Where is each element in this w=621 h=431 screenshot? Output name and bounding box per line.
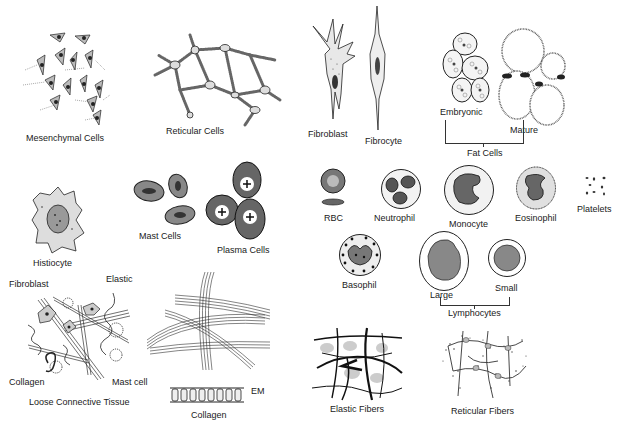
lymphocytes-bracket [440, 297, 510, 306]
label-basophil: Basophil [342, 280, 377, 290]
histiocyte-illustration [30, 185, 85, 255]
label-lct-fibroblast: Fibroblast [9, 279, 49, 289]
mature-fat-cells-illustration [497, 28, 569, 128]
label-collagen: Collagen [191, 410, 227, 420]
label-rbc: RBC [324, 213, 343, 223]
label-small-lymphocyte: Small [495, 283, 518, 293]
label-fat-cells: Fat Cells [467, 148, 503, 158]
label-embryonic: Embryonic [440, 107, 483, 117]
label-lct-mast-cell: Mast cell [112, 377, 148, 387]
label-reticular-cells: Reticular Cells [166, 126, 224, 136]
label-fibroblast: Fibroblast [308, 129, 348, 139]
mesenchymal-cells-illustration [15, 30, 115, 130]
fibroblast-illustration [305, 14, 360, 124]
eosinophil-illustration [515, 166, 557, 211]
platelets-illustration [584, 175, 608, 199]
label-reticular-fibers: Reticular Fibers [451, 406, 514, 416]
monocyte-illustration [443, 164, 495, 216]
loose-connective-tissue-illustration [8, 285, 153, 385]
elastic-fibers-illustration [312, 328, 404, 403]
embryonic-fat-cells-illustration [442, 32, 492, 104]
label-monocyte: Monocyte [449, 219, 488, 229]
label-plasma-cells: Plasma Cells [217, 245, 270, 255]
neutrophil-illustration [380, 168, 422, 210]
label-mast-cells: Mast Cells [139, 231, 181, 241]
label-eosinophil: Eosinophil [515, 213, 557, 223]
label-loose-connective-tissue: Loose Connective Tissue [29, 397, 130, 407]
fat-cells-bracket [445, 120, 524, 144]
reticular-cells-illustration [150, 30, 285, 125]
rbc-illustration [320, 168, 348, 208]
fat-cells-bracket-tick [483, 143, 484, 147]
label-fibrocyte: Fibrocyte [365, 136, 402, 146]
label-histiocyte: Histiocyte [33, 258, 72, 268]
plasma-cells-illustration [205, 162, 270, 242]
label-neutrophil: Neutrophil [374, 213, 415, 223]
reticular-fibers-illustration [438, 326, 530, 401]
label-mesenchymal-cells: Mesenchymal Cells [26, 133, 104, 143]
label-lct-collagen: Collagen [9, 377, 45, 387]
collagen-fibers-illustration [145, 270, 275, 370]
collagen-em-illustration [170, 385, 250, 405]
label-platelets: Platelets [577, 204, 612, 214]
fibrocyte-illustration [365, 4, 390, 132]
mast-cells-illustration [133, 172, 198, 227]
label-lct-elastic: Elastic [106, 274, 133, 284]
basophil-illustration [338, 233, 382, 277]
label-lymphocytes: Lymphocytes [448, 308, 501, 318]
small-lymphocyte-illustration [487, 238, 527, 278]
large-lymphocyte-illustration [418, 230, 470, 292]
label-elastic-fibers: Elastic Fibers [330, 404, 384, 414]
label-em: EM [251, 386, 265, 396]
